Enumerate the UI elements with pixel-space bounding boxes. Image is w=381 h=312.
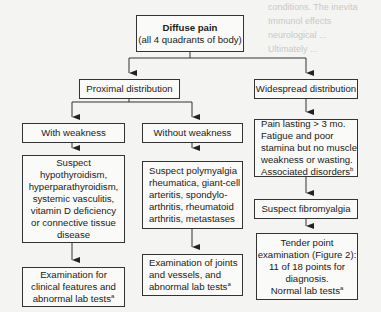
node-proximal-distribution: Proximal distribution xyxy=(79,79,180,99)
node-with-weakness: With weakness xyxy=(22,123,125,143)
node-exam-clinical: Examination forclinical features and abn… xyxy=(22,267,125,307)
node-pain-lasting: Pain lasting > 3 mo.Fatigue and poorstam… xyxy=(254,119,358,177)
node-widespread-distribution: Widespread distribution xyxy=(254,79,358,99)
node-exam-joints: Examination of jointsand vessels, and ab… xyxy=(142,254,243,296)
node-suspect-hypothyroidism: Suspecthypothyroidism,hyperparathyroidis… xyxy=(22,155,125,243)
node-suspect-polymyalgia: Suspect polymyalgiarheumatica, giant-cel… xyxy=(142,161,243,229)
node-diffuse-pain: Diffuse pain (all 4 quadrants of body) xyxy=(136,15,244,52)
node-suspect-fibromyalgia: Suspect fibromyalgia xyxy=(254,199,358,219)
node-tender-point: Tender pointexamination (Figure 2):11 of… xyxy=(256,233,358,300)
node-without-weakness: Without weakness xyxy=(142,123,243,143)
